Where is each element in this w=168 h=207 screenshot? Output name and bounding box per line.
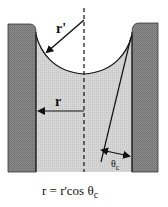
r-label: r [55,94,61,109]
left-capillary-wall [8,24,36,172]
right-capillary-wall [132,23,158,172]
formula-text: r = r'cos θc [42,183,99,200]
r-prime-label: r' [56,21,66,36]
capillary-meniscus-diagram: r' r θc r = r'cos θc [0,0,168,207]
